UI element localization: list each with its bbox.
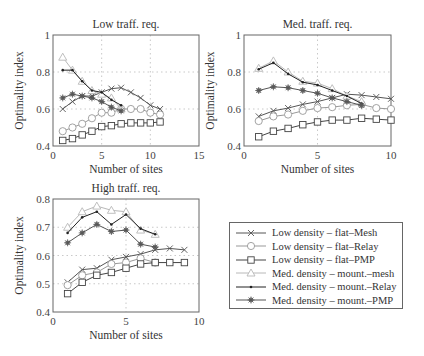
- svg-text:0.5: 0.5: [36, 278, 50, 290]
- chart-1: 05100.40.60.81Med. traff. req.Number of …: [204, 18, 397, 175]
- svg-text:10: 10: [194, 315, 206, 327]
- svg-text:5: 5: [99, 149, 105, 161]
- svg-text:Med. traff. req.: Med. traff. req.: [283, 18, 353, 31]
- circle-icon: [234, 241, 268, 251]
- svg-text:Low traff. req.: Low traff. req.: [93, 18, 160, 31]
- svg-text:5: 5: [123, 315, 129, 327]
- svg-text:Optimality index: Optimality index: [13, 216, 26, 295]
- legend-entry-med-mount-mesh: Med. density – mount.–mesh: [234, 267, 398, 281]
- svg-text:High traff. req.: High traff. req.: [92, 182, 161, 195]
- legend-entry-low-flat-relay: Low density – flat–Relay: [234, 240, 398, 254]
- x-mark-icon: [234, 228, 268, 238]
- svg-text:5: 5: [315, 149, 321, 161]
- svg-text:0.6: 0.6: [227, 103, 241, 115]
- svg-text:Optimality index: Optimality index: [204, 51, 217, 130]
- asterisk-icon: [234, 295, 268, 305]
- legend-entry-low-flat-mesh: Low density – flat–Mesh: [234, 226, 398, 240]
- square-icon: [234, 255, 268, 265]
- svg-text:0.8: 0.8: [36, 66, 50, 78]
- legend-label: Low density – flat–Mesh: [272, 227, 377, 238]
- legend-entry-med-mount-relay: Med. density – mount.–Relay: [234, 280, 398, 294]
- legend-label: Med. density – mount.–Relay: [272, 281, 397, 292]
- svg-text:0.6: 0.6: [36, 103, 50, 115]
- chart-0: 0510150.40.60.81Low traff. req.Number of…: [13, 18, 205, 175]
- svg-text:0.8: 0.8: [227, 66, 241, 78]
- legend-entry-med-mount-pmp: Med. density – mount.–PMP: [234, 294, 398, 308]
- svg-text:Number of sites: Number of sites: [89, 163, 163, 175]
- svg-text:Number of sites: Number of sites: [281, 163, 355, 175]
- svg-text:0.6: 0.6: [36, 250, 50, 262]
- svg-text:0.7: 0.7: [36, 221, 50, 233]
- legend-label: Med. density – mount.–PMP: [272, 295, 393, 306]
- legend: Low density – flat–Mesh Low density – fl…: [229, 222, 403, 309]
- legend-entry-low-flat-pmp: Low density – flat–PMP: [234, 253, 398, 267]
- svg-text:Number of sites: Number of sites: [89, 329, 163, 341]
- svg-text:0: 0: [50, 149, 56, 161]
- svg-text:0.8: 0.8: [36, 193, 50, 205]
- chart-2: 05100.40.50.60.70.8High traff. req.Numbe…: [13, 182, 205, 341]
- svg-text:0.4: 0.4: [227, 140, 241, 152]
- svg-text:1: 1: [45, 29, 51, 41]
- svg-text:1: 1: [236, 29, 242, 41]
- svg-text:0: 0: [50, 315, 56, 327]
- triangle-icon: [234, 268, 268, 278]
- dot-icon: [234, 282, 268, 292]
- legend-label: Med. density – mount.–mesh: [272, 268, 394, 279]
- svg-text:15: 15: [194, 149, 206, 161]
- legend-label: Low density – flat–PMP: [272, 254, 375, 265]
- legend-label: Low density – flat–Relay: [272, 241, 378, 252]
- svg-text:10: 10: [145, 149, 157, 161]
- svg-text:Optimality index: Optimality index: [13, 51, 26, 130]
- svg-text:0.4: 0.4: [36, 140, 50, 152]
- svg-text:0: 0: [241, 149, 247, 161]
- svg-text:10: 10: [386, 149, 398, 161]
- svg-text:0.4: 0.4: [36, 306, 50, 318]
